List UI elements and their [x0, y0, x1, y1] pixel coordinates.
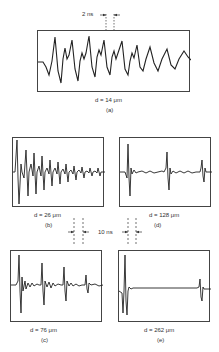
thickness-label-d: d = 128 μm: [149, 212, 179, 218]
waveform-d: [120, 138, 212, 208]
waveform-panel-e: [118, 250, 210, 322]
time-scale-label: 2 ns: [82, 11, 93, 17]
time-scale-label: 10 ns: [98, 229, 113, 235]
caption-c: (c): [41, 337, 48, 343]
waveform-panel-c: [10, 250, 102, 322]
caption-a: (a): [106, 107, 113, 113]
time-scale-2ns: 2 ns: [78, 8, 128, 30]
waveform-b: [13, 138, 105, 208]
waveform-panel-d: [119, 137, 211, 207]
waveform-a: [38, 31, 191, 93]
caption-d: (d): [154, 222, 161, 228]
thickness-label-e: d = 262 μm: [144, 327, 174, 333]
waveform-panel-a: [37, 30, 190, 92]
waveform-e: [119, 251, 211, 323]
caption-b: (b): [45, 222, 52, 228]
waveform-c: [11, 251, 103, 323]
thickness-label-c: d = 76 μm: [30, 327, 57, 333]
time-scale-10ns: 10 ns: [66, 216, 146, 246]
caption-e: (e): [157, 337, 164, 343]
thickness-label-a: d = 14 μm: [95, 97, 122, 103]
waveform-panel-b: [12, 137, 104, 207]
thickness-label-b: d = 26 μm: [34, 212, 61, 218]
